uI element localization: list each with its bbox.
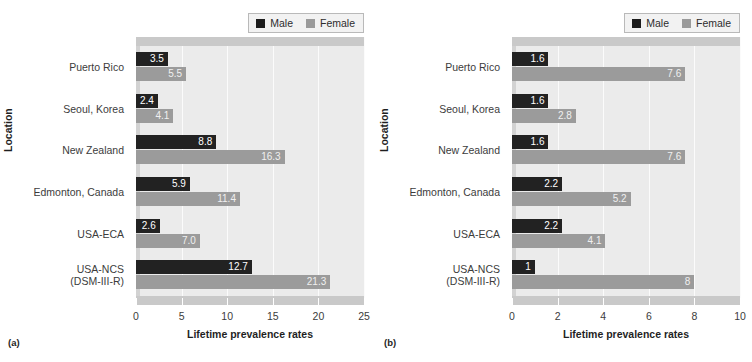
y-axis-tick-label: New Zealand — [376, 144, 500, 156]
y-axis-tick-label: Edmonton, Canada — [0, 186, 124, 198]
x-axis-tick-mark — [694, 298, 695, 305]
bar-value-label: 1.6 — [531, 137, 549, 147]
bar-male: 12.7 — [136, 260, 252, 274]
bar-male: 2.2 — [512, 177, 562, 191]
x-axis-tick-mark — [227, 298, 228, 305]
plot-shelf-bottom — [512, 296, 740, 305]
bar-male: 8.8 — [136, 135, 216, 149]
bar-female: 7.0 — [136, 234, 200, 248]
y-axis-tick-label-line: Edmonton, Canada — [376, 186, 500, 198]
bar-row: 1.67.6 — [512, 46, 740, 88]
bar-female: 5.5 — [136, 67, 186, 81]
bar-row: 8.816.3 — [136, 129, 364, 171]
y-axis-tick-label-line: Edmonton, Canada — [0, 186, 124, 198]
bar-female: 7.6 — [512, 150, 685, 164]
bar-male: 1.6 — [512, 52, 548, 66]
bar-value-label: 5.2 — [613, 194, 631, 204]
figure-panel-a: Male Female Location Puerto RicoSeoul, K… — [0, 0, 376, 362]
bar-value-label: 4.1 — [588, 236, 606, 246]
x-axis-tick-label: 4 — [600, 310, 606, 322]
plot-area-b: 1.67.61.62.81.67.62.25.22.24.118 — [512, 37, 740, 305]
x-axis-tick-mark — [136, 298, 137, 305]
legend-swatch-female-icon — [682, 19, 691, 28]
gridline — [364, 37, 365, 305]
bar-value-label: 12.7 — [228, 262, 251, 272]
y-axis-tick-label: USA-NCS(DSM-III-R) — [376, 263, 500, 287]
legend-swatch-male-icon — [256, 19, 265, 28]
bar-value-label: 2.4 — [140, 96, 158, 106]
bar-value-label: 7.0 — [182, 236, 200, 246]
plot-shelf-bottom — [136, 296, 364, 305]
y-axis-tick-label: USA-NCS(DSM-III-R) — [0, 263, 124, 287]
y-axis-tick-label-line: USA-NCS — [376, 263, 500, 275]
bar-value-label: 1 — [525, 262, 535, 272]
x-axis-tick-label: 5 — [179, 310, 185, 322]
bar-female: 5.2 — [512, 192, 631, 206]
plot-area-a: 3.55.52.44.18.816.35.911.42.67.012.721.3 — [136, 37, 364, 305]
bar-value-label: 2.8 — [558, 111, 576, 121]
x-axis-tick-label: 10 — [734, 310, 746, 322]
figure-panel-b: Male Female Location Puerto RicoSeoul, K… — [376, 0, 752, 362]
plot-shelf-top — [512, 37, 740, 46]
legend-entry-male: Male — [632, 18, 669, 29]
bar-female: 2.8 — [512, 109, 576, 123]
bar-rows-a: 3.55.52.44.18.816.35.911.42.67.012.721.3 — [136, 46, 364, 296]
bar-value-label: 2.2 — [544, 221, 562, 231]
legend-entry-female: Female — [306, 18, 355, 29]
bar-value-label: 1.6 — [531, 96, 549, 106]
y-axis-tick-label: USA-ECA — [0, 228, 124, 240]
bar-female: 4.1 — [136, 109, 173, 123]
x-axis-title: Lifetime prevalence rates — [136, 328, 364, 340]
bar-value-label: 5.5 — [168, 69, 186, 79]
x-axis-tick-mark — [603, 298, 604, 305]
bar-value-label: 8 — [685, 277, 695, 287]
plot-shelf-top — [136, 37, 364, 46]
y-axis-tick-label-line: New Zealand — [0, 144, 124, 156]
bar-value-label: 4.1 — [155, 111, 173, 121]
legend-swatch-female-icon — [306, 19, 315, 28]
x-axis-tick-label: 0 — [509, 310, 515, 322]
x-axis-tick-label: 25 — [358, 310, 370, 322]
y-axis-tick-label: Puerto Rico — [0, 61, 124, 73]
bar-female: 7.6 — [512, 67, 685, 81]
legend-swatch-male-icon — [632, 19, 641, 28]
bar-value-label: 11.4 — [217, 194, 240, 204]
x-axis-tick-mark — [558, 298, 559, 305]
x-axis-tick-labels-b: 0246810 — [512, 306, 740, 324]
x-axis-tick-label: 8 — [691, 310, 697, 322]
x-axis-tick-label: 15 — [267, 310, 279, 322]
gridline — [740, 37, 741, 305]
x-axis-tick-label: 20 — [313, 310, 325, 322]
legend-a: Male Female — [248, 13, 364, 33]
bar-row: 2.25.2 — [512, 171, 740, 213]
bar-value-label: 2.6 — [142, 221, 160, 231]
y-axis-tick-label-line: Seoul, Korea — [376, 103, 500, 115]
y-axis-tick-label-line: USA-ECA — [376, 228, 500, 240]
y-axis-tick-label: Seoul, Korea — [0, 103, 124, 115]
x-axis-tick-label: 10 — [221, 310, 233, 322]
y-axis-tick-label-line: (DSM-III-R) — [0, 275, 124, 287]
y-axis-tick-labels-a: Puerto RicoSeoul, KoreaNew ZealandEdmont… — [0, 46, 130, 296]
x-axis-tick-mark — [649, 298, 650, 305]
bar-row: 2.44.1 — [136, 88, 364, 130]
x-axis-tick-label: 6 — [646, 310, 652, 322]
bar-row: 1.67.6 — [512, 129, 740, 171]
y-axis-tick-label-line: Puerto Rico — [0, 61, 124, 73]
bar-row: 1.62.8 — [512, 88, 740, 130]
y-axis-tick-label: Puerto Rico — [376, 61, 500, 73]
y-axis-tick-label-line: New Zealand — [376, 144, 500, 156]
x-axis-tick-mark — [740, 298, 741, 305]
bar-male: 2.2 — [512, 219, 562, 233]
bar-female: 4.1 — [512, 234, 605, 248]
bar-value-label: 5.9 — [172, 179, 190, 189]
legend-label-female: Female — [320, 18, 355, 29]
bar-female: 8 — [512, 275, 694, 289]
y-axis-tick-label: Edmonton, Canada — [376, 186, 500, 198]
bar-male: 1.6 — [512, 135, 548, 149]
y-axis-tick-label: New Zealand — [0, 144, 124, 156]
bar-value-label: 7.6 — [667, 152, 685, 162]
y-axis-tick-label-line: Seoul, Korea — [0, 103, 124, 115]
y-axis-tick-label-line: USA-ECA — [0, 228, 124, 240]
bar-value-label: 8.8 — [198, 137, 216, 147]
bar-row: 2.67.0 — [136, 213, 364, 255]
